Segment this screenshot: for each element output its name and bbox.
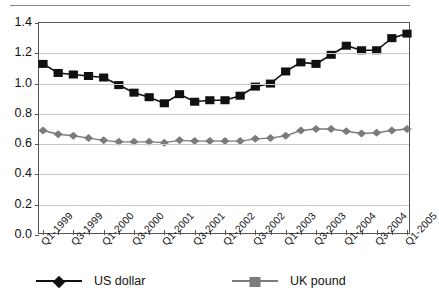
data-point-marker	[160, 139, 169, 147]
data-point-marker	[311, 125, 320, 133]
y-axis-tick-label: 1.0	[15, 76, 32, 90]
y-axis-tick-label: 1.4	[15, 15, 32, 29]
data-point-marker	[114, 81, 123, 89]
y-axis-tick-mark	[35, 84, 39, 85]
data-point-marker	[145, 93, 154, 101]
data-point-marker	[266, 134, 275, 142]
gridline	[39, 53, 409, 54]
y-axis-tick-label: 1.2	[15, 45, 32, 59]
series-layer	[39, 23, 411, 235]
data-point-marker	[99, 74, 108, 82]
data-point-marker	[342, 42, 351, 50]
data-point-marker	[251, 135, 260, 143]
data-point-marker	[54, 130, 63, 138]
data-point-marker	[160, 99, 169, 107]
data-point-marker	[38, 127, 47, 135]
legend-line	[36, 280, 82, 282]
data-point-marker	[220, 96, 229, 104]
y-axis: 0.00.20.40.60.81.01.21.4	[0, 22, 34, 234]
gridline	[39, 144, 409, 145]
gridline	[39, 174, 409, 175]
data-point-marker	[342, 127, 351, 135]
data-point-marker	[281, 67, 290, 75]
series-line-us-dollar	[43, 34, 407, 104]
data-point-marker	[387, 127, 396, 135]
data-point-marker	[129, 89, 138, 97]
data-point-marker	[175, 90, 184, 98]
legend-item-uk-pound[interactable]: UK pound	[232, 274, 346, 288]
y-axis-tick-mark	[35, 114, 39, 115]
data-point-marker	[84, 134, 93, 142]
data-point-marker	[402, 125, 411, 133]
data-point-marker	[402, 30, 411, 38]
gridline	[39, 205, 409, 206]
y-axis-tick-mark	[35, 53, 39, 54]
data-point-marker	[281, 132, 290, 140]
y-axis-tick-label: 0.2	[15, 197, 32, 211]
data-point-marker	[372, 129, 381, 137]
legend-item-us-dollar[interactable]: US dollar	[36, 274, 145, 288]
y-axis-tick-mark	[35, 23, 39, 24]
y-axis-tick-mark	[35, 174, 39, 175]
data-point-marker	[84, 72, 93, 80]
legend-line	[232, 280, 278, 282]
y-axis-tick-mark	[35, 144, 39, 145]
y-axis-tick-label: 0.6	[15, 136, 32, 150]
legend-diamond-icon	[53, 276, 66, 289]
y-axis-tick-mark	[35, 235, 39, 236]
legend-label: US dollar	[94, 274, 145, 288]
legend-label: UK pound	[290, 274, 346, 288]
data-point-marker	[296, 58, 305, 66]
data-point-marker	[205, 96, 214, 104]
chart-legend: US dollarUK pound	[0, 272, 417, 298]
data-point-marker	[54, 69, 63, 77]
data-point-marker	[327, 125, 336, 133]
data-point-marker	[38, 60, 47, 68]
gridline	[39, 84, 409, 85]
y-axis-tick-label: 0.8	[15, 106, 32, 120]
data-point-marker	[327, 51, 336, 59]
data-point-marker	[387, 34, 396, 42]
y-axis-tick-mark	[35, 205, 39, 206]
plot-area	[38, 22, 410, 234]
y-axis-tick-label: 0.0	[15, 227, 32, 241]
legend-square-icon	[250, 277, 261, 287]
data-point-marker	[357, 130, 366, 138]
data-point-marker	[236, 92, 245, 100]
data-point-marker	[311, 60, 320, 68]
gridline	[39, 114, 409, 115]
data-point-marker	[69, 132, 78, 140]
data-point-marker	[296, 127, 305, 135]
data-point-marker	[190, 98, 199, 106]
y-axis-tick-label: 0.4	[15, 166, 32, 180]
data-point-marker	[69, 70, 78, 78]
